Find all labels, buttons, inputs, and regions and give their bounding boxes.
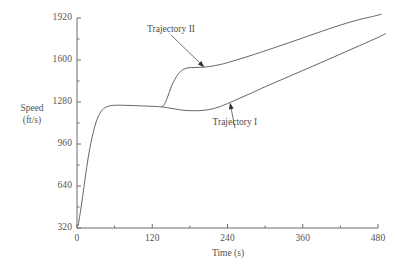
y-axis-tick-label: 1600: [34, 54, 72, 64]
series-line-trajectory-i: [78, 34, 385, 226]
x-axis-tick-label: 240: [208, 233, 248, 243]
x-axis-tick-label: 360: [283, 233, 323, 243]
annotation-arrowhead: [229, 103, 234, 110]
x-axis-title: Time (s): [180, 248, 276, 258]
y-axis-tick-label: 320: [34, 222, 72, 232]
y-axis-tick-label: 1280: [34, 96, 72, 106]
series-annotation-label: Trajectory II: [147, 24, 195, 34]
x-axis-tick-label: 0: [57, 233, 97, 243]
y-axis-title: Speed (ft/s): [6, 103, 58, 126]
y-axis-tick-label: 640: [34, 180, 72, 190]
annotation-leader-line: [171, 35, 200, 63]
y-axis-title-line2: (ft/s): [6, 115, 58, 127]
y-axis-tick-label: 1920: [34, 12, 72, 22]
y-axis-ticks: [77, 18, 81, 228]
series-annotation-label: Trajectory I: [213, 117, 258, 127]
speed-vs-time-chart: Speed (ft/s) Time (s) 320640960128016001…: [0, 0, 396, 270]
x-axis-tick-label: 120: [132, 233, 172, 243]
x-axis-ticks: [77, 224, 378, 228]
x-axis-tick-label: 480: [358, 233, 396, 243]
annotation-leaders-layer: [171, 35, 235, 128]
y-axis-tick-label: 960: [34, 138, 72, 148]
